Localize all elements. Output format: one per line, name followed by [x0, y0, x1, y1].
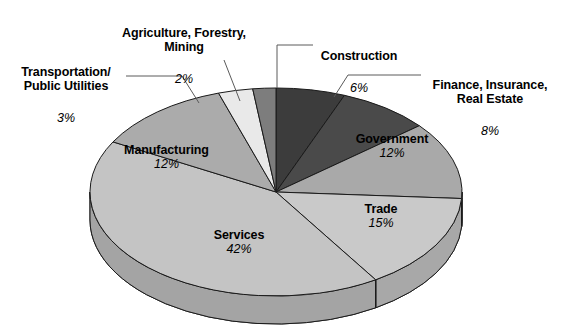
- pie-top-face: [90, 88, 462, 296]
- slice-label-government-percent: 12%: [332, 146, 452, 160]
- slice-label-trade-name: Trade: [348, 202, 414, 216]
- slice-label-manufacturing-percent: 12%: [104, 157, 229, 171]
- slice-label-government-name: Government: [332, 132, 452, 146]
- slice-label-manufacturing: Manufacturing 12%: [104, 143, 229, 172]
- callout-construction: Construction 6%: [300, 31, 418, 113]
- callout-agriculture-forestry-mining: Agriculture, Forestry, Mining 2%: [104, 8, 264, 104]
- slice-label-trade-percent: 15%: [348, 216, 414, 230]
- pie-chart-figure: Transportation/ Public Utilities 3% Agri…: [0, 0, 574, 336]
- callout-construction-percent: 6%: [300, 81, 418, 95]
- slice-label-services-percent: 42%: [194, 242, 284, 256]
- callout-agriculture-percent: 2%: [104, 72, 264, 86]
- callout-agriculture-label: Agriculture, Forestry, Mining: [104, 26, 264, 54]
- callout-transportation-percent: 3%: [6, 111, 126, 125]
- slice-label-government: Government 12%: [332, 132, 452, 161]
- slice-label-services: Services 42%: [194, 228, 284, 257]
- slice-label-manufacturing-name: Manufacturing: [104, 143, 229, 157]
- slice-label-services-name: Services: [194, 228, 284, 242]
- callout-construction-label: Construction: [300, 49, 418, 63]
- slice-label-trade: Trade 15%: [348, 202, 414, 231]
- callout-finance-label: Finance, Insurance, Real Estate: [410, 78, 570, 106]
